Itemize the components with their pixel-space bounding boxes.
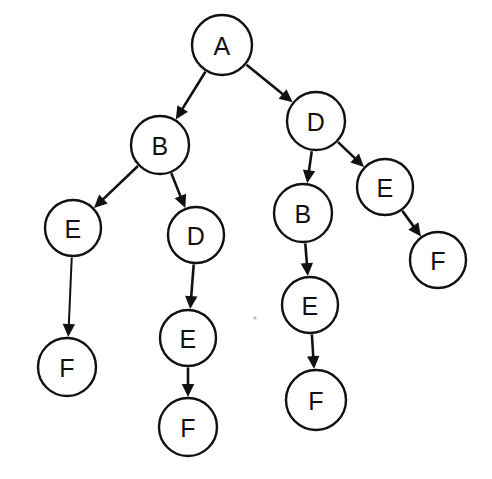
- edge-line: [102, 166, 138, 200]
- tree-edge-e-to-f: [182, 368, 194, 398]
- edge-line: [182, 72, 206, 110]
- tree-edge-e-to-f: [402, 211, 421, 237]
- node-label: F: [430, 247, 445, 275]
- arrowhead-icon: [408, 222, 421, 236]
- arrowhead-icon: [182, 384, 194, 397]
- edge-line: [191, 264, 194, 298]
- tree-node-e[interactable]: E: [282, 277, 338, 333]
- tree-edge-e-to-f: [307, 334, 319, 369]
- edge-line: [171, 173, 181, 198]
- node-label: E: [302, 292, 319, 320]
- node-label: E: [180, 325, 197, 353]
- node-label: F: [59, 354, 74, 382]
- tree-node-a[interactable]: A: [192, 15, 252, 75]
- tree-node-f[interactable]: F: [159, 398, 217, 456]
- tree-node-f[interactable]: F: [410, 232, 466, 288]
- tree-node-d[interactable]: D: [168, 207, 224, 263]
- node-label: D: [307, 108, 325, 136]
- tree-edge-b-to-e: [301, 243, 313, 276]
- scan-artifacts-layer: [253, 316, 256, 319]
- tree-edge-b-to-e: [94, 166, 138, 208]
- scan-speck: [253, 316, 256, 319]
- tree-node-f[interactable]: F: [38, 338, 96, 396]
- tree-edge-a-to-d: [247, 65, 293, 102]
- tree-edge-d-to-e: [338, 142, 364, 167]
- edge-line: [402, 211, 414, 228]
- tree-edge-b-to-d: [171, 173, 186, 208]
- edges-layer: [63, 65, 421, 397]
- node-label: B: [152, 132, 169, 160]
- tree-diagram-canvas: ABDEDBEFEEFFF: [0, 0, 492, 479]
- arrowhead-icon: [185, 296, 197, 309]
- node-label: D: [187, 222, 205, 250]
- tree-node-e[interactable]: E: [357, 159, 413, 215]
- node-label: A: [214, 32, 231, 60]
- tree-edge-e-to-f: [63, 257, 75, 337]
- edge-line: [312, 334, 313, 358]
- tree-node-e[interactable]: E: [160, 310, 216, 366]
- tree-node-b[interactable]: B: [131, 116, 189, 174]
- tree-node-d[interactable]: D: [287, 92, 345, 150]
- tree-node-e[interactable]: E: [45, 200, 101, 256]
- edge-line: [338, 142, 356, 159]
- arrowhead-icon: [63, 324, 75, 337]
- tree-edge-d-to-b: [303, 151, 315, 183]
- arrowhead-icon: [301, 263, 313, 276]
- tree-edge-d-to-e: [185, 264, 197, 309]
- arrowhead-icon: [307, 356, 319, 369]
- tree-edge-a-to-b: [176, 72, 206, 120]
- tree-node-f[interactable]: F: [286, 370, 346, 430]
- node-label: E: [377, 174, 394, 202]
- edge-line: [69, 257, 72, 326]
- node-label: F: [180, 414, 195, 442]
- node-label: B: [295, 200, 312, 228]
- node-label: E: [65, 215, 82, 243]
- edge-line: [305, 243, 307, 265]
- tree-diagram: ABDEDBEFEEFFF: [0, 0, 492, 479]
- nodes-layer: ABDEDBEFEEFFF: [38, 15, 466, 456]
- tree-node-b[interactable]: B: [274, 184, 332, 242]
- edge-line: [309, 151, 312, 172]
- edge-line: [247, 65, 285, 95]
- node-label: F: [308, 387, 323, 415]
- arrowhead-icon: [303, 170, 315, 184]
